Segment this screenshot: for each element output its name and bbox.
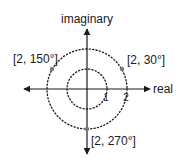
point-2-270 <box>85 127 89 131</box>
polar-complex-plane-diagram: imaginary real 1 2 [2, 150°] [2, 30°] [2… <box>0 0 185 158</box>
point-2-30 <box>120 67 124 71</box>
tick-label-2: 2 <box>123 92 129 103</box>
point-label-2-150: [2, 150°] <box>13 52 58 66</box>
imaginary-axis-label: imaginary <box>61 12 113 26</box>
point-label-2-30: [2, 30°] <box>127 53 165 67</box>
tick-label-1: 1 <box>103 92 109 103</box>
real-axis-label: real <box>153 82 173 96</box>
point-2-150 <box>50 67 54 71</box>
point-label-2-270: [2, 270°] <box>91 134 136 148</box>
